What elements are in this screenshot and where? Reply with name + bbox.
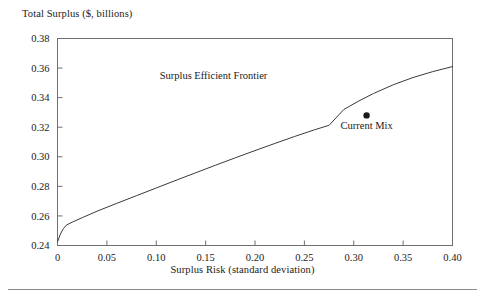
current-mix-marker (363, 112, 369, 118)
data-point (363, 112, 369, 118)
y-tick-label: 0.30 (31, 151, 49, 162)
x-tick-label: 0.10 (147, 252, 165, 263)
footer-divider (8, 289, 477, 290)
x-axis-tick-labels: 00.050.100.150.200.250.300.350.40 (55, 252, 462, 263)
x-tick-label: 0 (55, 252, 60, 263)
x-tick-label: 0.15 (196, 252, 214, 263)
y-tick-label: 0.24 (31, 240, 50, 251)
y-tick-label: 0.38 (31, 33, 49, 44)
plot-area: 0.240.260.280.300.320.340.360.38 00.050.… (0, 0, 485, 300)
y-axis-ticks (58, 68, 63, 216)
plot-annotations: Surplus Efficient FrontierCurrent Mix (160, 70, 394, 132)
x-axis-ticks (107, 241, 403, 246)
x-tick-label: 0.40 (443, 252, 461, 263)
x-tick-label: 0.25 (295, 252, 313, 263)
frontier-line (58, 67, 453, 242)
y-tick-label: 0.34 (31, 92, 50, 103)
x-tick-label: 0.05 (98, 252, 116, 263)
y-tick-label: 0.36 (31, 63, 49, 74)
y-tick-label: 0.26 (31, 211, 49, 222)
annotation-label: Current Mix (340, 120, 393, 131)
y-axis-tick-labels: 0.240.260.280.300.320.340.360.38 (31, 33, 50, 251)
chart-figure: Total Surplus ($, billions) 0.240.260.28… (0, 0, 485, 300)
x-tick-label: 0.30 (345, 252, 363, 263)
x-axis-title: Surplus Risk (standard deviation) (0, 264, 485, 275)
y-tick-label: 0.28 (31, 181, 49, 192)
y-tick-label: 0.32 (31, 122, 49, 133)
x-tick-label: 0.35 (394, 252, 412, 263)
annotation-label: Surplus Efficient Frontier (160, 70, 268, 81)
x-tick-label: 0.20 (246, 252, 264, 263)
